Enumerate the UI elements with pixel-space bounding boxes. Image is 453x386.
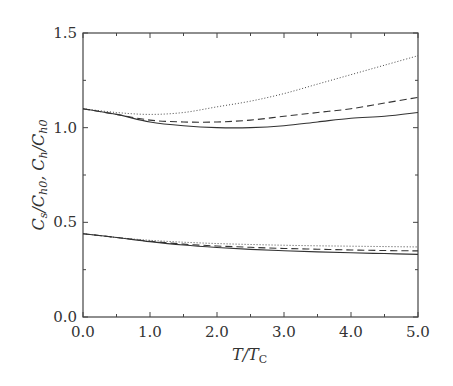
data-series [83, 56, 418, 255]
y-tick-label: 1.0 [53, 119, 77, 137]
axis-ticks [83, 33, 418, 317]
series-lower-dashed [83, 234, 418, 251]
x-tick-label: 4.0 [339, 323, 363, 341]
y-tick-label: 0.0 [53, 308, 77, 326]
line-chart: 0.01.02.03.04.05.00.00.51.01.5 T/TC Cs/C… [0, 0, 453, 386]
series-upper-solid [83, 109, 418, 128]
tick-labels: 0.01.02.03.04.05.00.00.51.01.5 [53, 24, 430, 341]
x-tick-label: 5.0 [406, 323, 430, 341]
plot-area: 0.01.02.03.04.05.00.00.51.01.5 [53, 24, 430, 341]
x-tick-label: 3.0 [272, 323, 296, 341]
series-lower-solid [83, 234, 418, 255]
x-tick-label: 1.0 [138, 323, 162, 341]
series-lower-dotted [83, 234, 418, 247]
plot-frame [83, 33, 418, 317]
x-axis-label: T/TC [232, 345, 267, 366]
y-tick-label: 0.5 [53, 213, 77, 231]
x-tick-label: 2.0 [205, 323, 229, 341]
y-tick-label: 1.5 [53, 24, 77, 42]
y-axis-label: Cs/Ch0, Ch/Ch0 [29, 120, 50, 231]
